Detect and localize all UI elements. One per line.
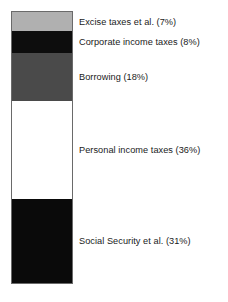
bar-segment-social-security (12, 199, 72, 283)
bar-segment-corporate-income-taxes (12, 31, 72, 53)
segment-label-social-security: Social Security et al. (31%) (79, 236, 228, 247)
bar-segment-personal-income-taxes (12, 101, 72, 199)
segment-label-column: Excise taxes et al. (7%) Corporate incom… (79, 11, 228, 284)
bar-segment-borrowing (12, 53, 72, 101)
stacked-bar-chart: Excise taxes et al. (7%) Corporate incom… (0, 0, 228, 302)
stacked-bar-column (11, 11, 73, 284)
segment-label-personal-income-taxes: Personal income taxes (36%) (79, 145, 228, 156)
segment-label-borrowing: Borrowing (18%) (79, 72, 228, 83)
bar-segment-excise-taxes (12, 12, 72, 31)
segment-label-corporate-income-taxes: Corporate income taxes (8%) (79, 37, 228, 48)
segment-label-excise-taxes: Excise taxes et al. (7%) (79, 16, 228, 27)
